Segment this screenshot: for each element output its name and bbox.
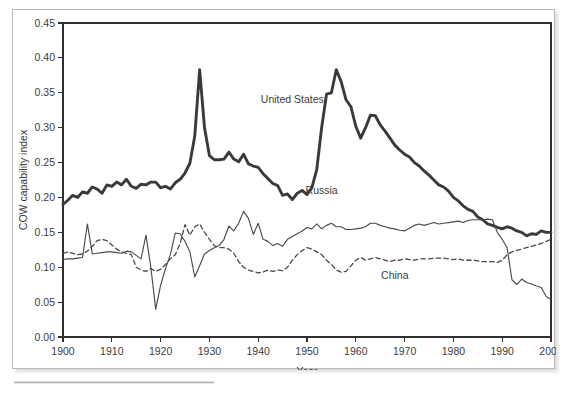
x-tick-label: 2000 bbox=[539, 345, 556, 357]
y-tick-label: 0.00 bbox=[35, 331, 56, 343]
x-tick-label: 1960 bbox=[344, 345, 368, 357]
series-line-china bbox=[63, 224, 551, 273]
page-edge-shadow bbox=[14, 381, 214, 384]
x-tick-label: 1990 bbox=[491, 345, 515, 357]
y-tick-label: 0.45 bbox=[35, 17, 56, 29]
x-axis-title: Year bbox=[296, 365, 318, 370]
y-tick-label: 0.30 bbox=[35, 121, 56, 133]
x-tick-label: 1900 bbox=[51, 345, 75, 357]
series-label-united-states: United States bbox=[261, 93, 324, 105]
x-tick-label: 1920 bbox=[149, 345, 173, 357]
y-tick-label: 0.05 bbox=[35, 296, 56, 308]
axis-lines bbox=[63, 23, 551, 337]
chart-canvas: 0.000.050.100.150.200.250.300.350.400.45… bbox=[13, 10, 556, 370]
series-label-china: China bbox=[381, 269, 409, 281]
x-tick-label: 1940 bbox=[247, 345, 271, 357]
series-label-russia: Russia bbox=[306, 184, 338, 196]
y-axis-title: COW capability index bbox=[17, 129, 29, 230]
x-tick-label: 1970 bbox=[393, 345, 417, 357]
x-tick-label: 1950 bbox=[295, 345, 319, 357]
x-tick-label: 1930 bbox=[198, 345, 222, 357]
y-tick-label: 0.25 bbox=[35, 156, 56, 168]
y-tick-label: 0.40 bbox=[35, 51, 56, 63]
x-tick-label: 1980 bbox=[442, 345, 466, 357]
figure-frame: 0.000.050.100.150.200.250.300.350.400.45… bbox=[12, 9, 555, 369]
series-line-russia bbox=[63, 211, 551, 309]
y-tick-label: 0.35 bbox=[35, 86, 56, 98]
x-tick-label: 1910 bbox=[100, 345, 124, 357]
y-tick-label: 0.10 bbox=[35, 261, 56, 273]
y-tick-label: 0.15 bbox=[35, 226, 56, 238]
plot-box bbox=[63, 23, 551, 337]
y-tick-label: 0.20 bbox=[35, 191, 56, 203]
